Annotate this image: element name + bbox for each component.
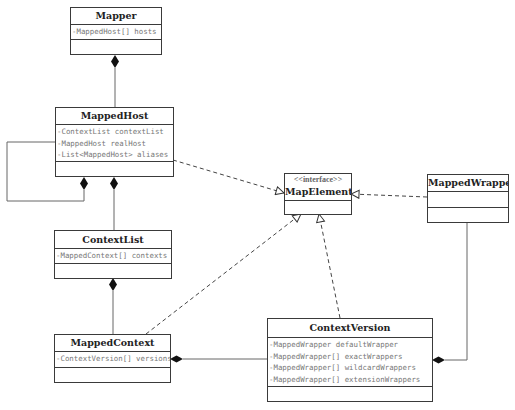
composition-mapper-mappedhost — [111, 55, 119, 107]
realization-mappedhost-mapelement — [173, 160, 284, 193]
composition-contextlist-mappedcontext — [109, 278, 117, 334]
class-name: MappedWrapper — [428, 175, 508, 192]
attribute: -MappedWrapper[] extensionWrappers — [269, 374, 432, 386]
attributes-compartment: -ContextList contextList -MappedHost rea… — [56, 125, 173, 162]
composition-mappedcontext-contextversion — [170, 356, 267, 363]
attribute: -MappedWrapper[] exactWrappers — [269, 351, 432, 363]
attribute: -MappedHost[] hosts — [72, 25, 161, 38]
interface-mapelement[interactable]: <<interface>> MapElement — [284, 173, 352, 215]
realization-mappedwrapper-mapelement — [351, 194, 427, 197]
class-name: MapElement — [285, 185, 351, 198]
class-contextlist[interactable]: ContextList -MappedContext[] contexts — [54, 230, 172, 279]
class-contextversion[interactable]: ContextVersion -MappedWrapper defaultWra… — [267, 318, 433, 402]
class-mappedwrapper[interactable]: MappedWrapper — [427, 174, 509, 223]
class-mapper[interactable]: Mapper -MappedHost[] hosts — [70, 7, 162, 55]
attribute: -MappedContext[] contexts — [56, 249, 171, 262]
class-name: Mapper — [71, 8, 161, 25]
class-name: ContextVersion — [268, 319, 432, 338]
attribute: -List<MappedHost> aliases — [57, 149, 173, 161]
attributes-compartment — [428, 192, 508, 208]
class-header: <<interface>> MapElement — [285, 174, 351, 201]
attributes-compartment: -MappedWrapper defaultWrapper -MappedWra… — [268, 338, 432, 387]
stereotype-label: <<interface>> — [285, 175, 351, 185]
attribute: -MappedWrapper[] wildcardWrappers — [269, 362, 432, 374]
attributes-compartment: -MappedContext[] contexts — [55, 249, 171, 264]
realization-contextversion-mapelement — [319, 214, 340, 318]
composition-mappedhost-contextlist — [110, 177, 118, 230]
attributes-compartment: -ContextVersion[] versions — [55, 352, 170, 368]
class-mappedhost[interactable]: MappedHost -ContextList contextList -Map… — [55, 107, 174, 177]
attributes-compartment: -MappedHost[] hosts — [71, 25, 161, 40]
class-name: MappedHost — [56, 108, 173, 125]
class-mappedcontext[interactable]: MappedContext -ContextVersion[] versions — [54, 334, 171, 383]
attribute: -MappedHost realHost — [57, 138, 173, 150]
uml-diagram-canvas: Mapper -MappedHost[] hosts MappedHost -C… — [0, 0, 515, 410]
attribute: -ContextList contextList — [57, 126, 173, 138]
class-name: MappedContext — [55, 335, 170, 352]
attribute: -ContextVersion[] versions — [56, 352, 170, 366]
attribute: -MappedWrapper defaultWrapper — [269, 339, 432, 351]
composition-contextversion-mappedwrapper — [432, 222, 467, 364]
class-name: ContextList — [55, 231, 171, 249]
